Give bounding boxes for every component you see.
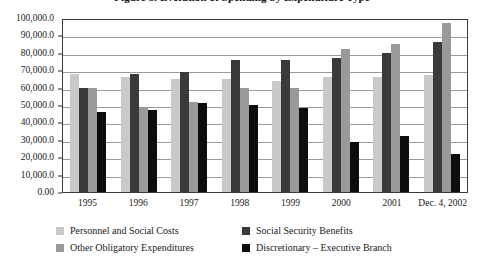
x-tick-label: 1995 (62, 195, 113, 211)
figure-container: Figure 3. Evolution of Spending by Expen… (0, 0, 484, 280)
legend-swatch-other-obligatory (56, 244, 64, 252)
x-tick-label: 1996 (113, 195, 164, 211)
bar[interactable] (222, 79, 231, 192)
bar-group (265, 20, 316, 192)
legend-item[interactable]: Discretionary – Executive Branch (242, 239, 442, 256)
bar[interactable] (341, 49, 350, 192)
x-tick-label: 2001 (367, 195, 418, 211)
x-tick-label: Dec. 4, 2002 (417, 195, 468, 211)
bar[interactable] (198, 103, 207, 192)
y-tick-label: 0.00 (37, 188, 54, 198)
legend-swatch-personnel (56, 227, 64, 235)
y-tick-label: 50,000.0 (21, 101, 54, 111)
legend-item[interactable]: Personnel and Social Costs (56, 222, 242, 239)
bar[interactable] (171, 79, 180, 192)
bar-group (114, 20, 165, 192)
bar-group (215, 20, 266, 192)
legend-swatch-social-security (242, 227, 250, 235)
bar[interactable] (424, 75, 433, 192)
y-tick-label: 10,000.0 (21, 171, 54, 181)
y-tick-label: 40,000.0 (21, 119, 54, 129)
bar[interactable] (180, 72, 189, 192)
bar-groups (63, 20, 467, 192)
bar[interactable] (332, 58, 341, 192)
bar[interactable] (88, 88, 97, 192)
bar[interactable] (382, 53, 391, 192)
bar[interactable] (189, 102, 198, 192)
bar[interactable] (442, 23, 451, 192)
legend-label: Social Security Benefits (256, 226, 353, 236)
y-tick-label: 30,000.0 (21, 136, 54, 146)
legend-item[interactable]: Other Obligatory Expenditures (56, 239, 242, 256)
bar[interactable] (231, 60, 240, 192)
legend-label: Discretionary – Executive Branch (256, 243, 392, 253)
y-tick-label: 100,000.0 (16, 14, 54, 24)
x-axis: 1995199619971998199920002001Dec. 4, 2002 (62, 195, 468, 211)
bar[interactable] (70, 74, 79, 192)
x-tick-label: 1997 (164, 195, 215, 211)
bar-group (63, 20, 114, 192)
y-tick-label: 20,000.0 (21, 153, 54, 163)
bar[interactable] (323, 77, 332, 192)
bar-group (417, 20, 468, 192)
legend-swatch-discretionary (242, 244, 250, 252)
bar[interactable] (121, 77, 130, 192)
chart-legend: Personnel and Social CostsSocial Securit… (56, 222, 456, 256)
figure-title: Figure 3. Evolution of Spending by Expen… (0, 0, 484, 4)
legend-label: Personnel and Social Costs (70, 226, 179, 236)
x-tick-label: 2000 (316, 195, 367, 211)
bar[interactable] (391, 44, 400, 192)
y-tick-label: 60,000.0 (21, 84, 54, 94)
bar[interactable] (240, 88, 249, 192)
bar[interactable] (272, 81, 281, 192)
bar[interactable] (373, 77, 382, 192)
legend-label: Other Obligatory Expenditures (70, 243, 194, 253)
y-tick-label: 80,000.0 (21, 49, 54, 59)
plot-area (62, 19, 468, 193)
bar[interactable] (350, 142, 359, 192)
y-tick-label: 90,000.0 (21, 32, 54, 42)
y-tick-label: 70,000.0 (21, 66, 54, 76)
bar[interactable] (433, 42, 442, 192)
bar[interactable] (79, 88, 88, 192)
plot-wrapper: 100,000.090,000.080,000.070,000.060,000.… (0, 12, 484, 212)
bar-group (366, 20, 417, 192)
bar-group (316, 20, 367, 192)
bar[interactable] (249, 105, 258, 192)
bar[interactable] (148, 110, 157, 192)
x-tick-label: 1999 (265, 195, 316, 211)
bar[interactable] (451, 154, 460, 192)
x-tick-label: 1998 (214, 195, 265, 211)
bar[interactable] (281, 60, 290, 192)
legend-item[interactable]: Social Security Benefits (242, 222, 442, 239)
y-axis: 100,000.090,000.080,000.070,000.060,000.… (0, 12, 62, 194)
bar[interactable] (139, 108, 148, 192)
bar[interactable] (290, 88, 299, 192)
bar[interactable] (400, 136, 409, 192)
bar-group (164, 20, 215, 192)
bar[interactable] (97, 112, 106, 192)
bar[interactable] (130, 74, 139, 192)
bar[interactable] (299, 108, 308, 192)
